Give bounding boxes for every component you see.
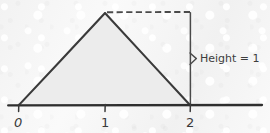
height-annotation-label: Height = 1 [200,52,260,65]
x-axis-label-2: 2 [186,115,194,130]
figure-canvas: 0 1 2 Height = 1 [0,0,270,133]
triangle-function-chart: 0 1 2 Height = 1 [0,0,270,133]
x-axis-label-1: 1 [101,115,109,130]
x-axis-label-0: 0 [14,115,22,130]
area-fill-triangle [19,13,190,105]
